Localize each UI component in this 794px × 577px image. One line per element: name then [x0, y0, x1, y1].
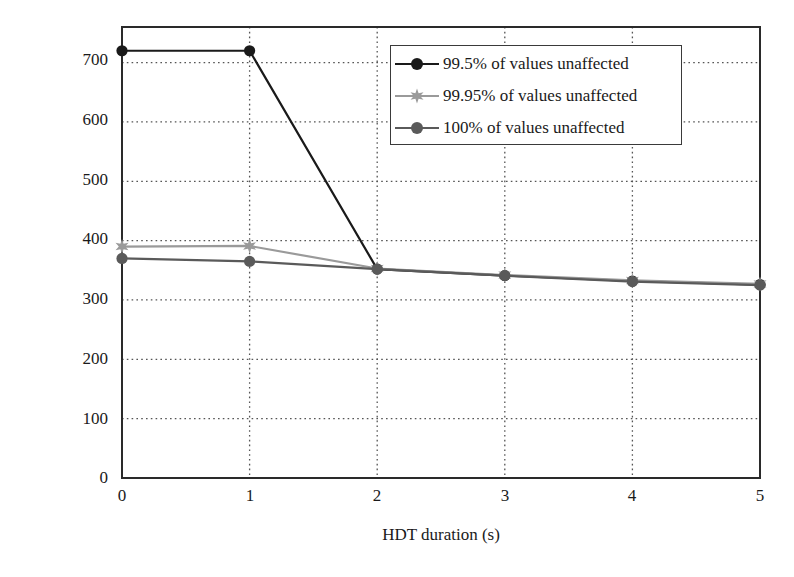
data-point-marker [244, 45, 255, 56]
legend-marker-2 [391, 111, 443, 144]
data-point-marker [116, 45, 127, 56]
star-marker-icon [409, 88, 425, 104]
data-point-marker [244, 256, 255, 267]
data-series [116, 253, 765, 291]
data-point-marker [754, 280, 765, 291]
legend-marker-0 [391, 47, 443, 80]
legend-label: 100% of values unaffected [443, 118, 624, 138]
chart-figure: Number of initialized handovers HDT dura… [0, 0, 794, 577]
data-point-marker [499, 270, 510, 281]
legend-label: 99.5% of values unaffected [443, 54, 629, 74]
legend-item: 100% of values unaffected [391, 111, 681, 144]
data-point-marker [627, 276, 638, 287]
circle-marker-icon [411, 58, 423, 70]
legend: 99.5% of values unaffected 99.95% of val… [390, 45, 682, 145]
data-point-marker [372, 264, 383, 275]
legend-item: 99.95% of values unaffected [391, 79, 681, 112]
data-point-marker [116, 253, 127, 264]
legend-marker-1 [391, 79, 443, 112]
legend-label: 99.95% of values unaffected [443, 86, 637, 106]
series-line [122, 246, 760, 284]
legend-item: 99.5% of values unaffected [391, 47, 681, 80]
circle-marker-icon [411, 122, 423, 134]
